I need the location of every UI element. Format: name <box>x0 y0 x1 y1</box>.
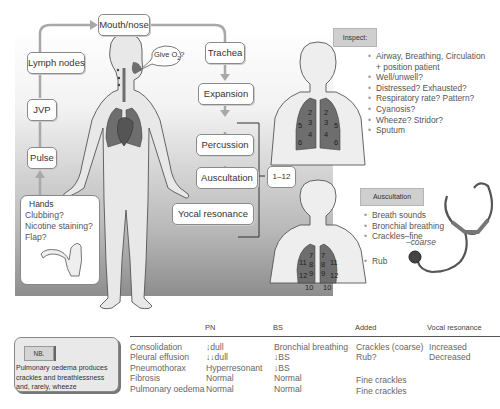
auscultation-item: Bronchial breathing <box>364 221 444 232</box>
give-o2-text: Give O <box>154 50 177 59</box>
table-cell: Decreased <box>429 352 471 362</box>
svg-text:5: 5 <box>298 121 302 130</box>
svg-text:5: 5 <box>334 121 338 130</box>
table-cell: Bronchial breathing <box>274 342 348 352</box>
svg-text:7: 7 <box>321 251 325 260</box>
table-cell: Normal <box>274 373 348 383</box>
table-col-vocal-resonance: Increased Decreased <box>429 342 471 363</box>
svg-text:8: 8 <box>309 260 313 269</box>
table-header: BS <box>273 323 283 332</box>
svg-text:3: 3 <box>324 118 328 127</box>
inspect-item: + position patient <box>368 62 485 73</box>
svg-text:11: 11 <box>330 258 338 267</box>
hands-item: Clubbing? <box>25 210 64 220</box>
flap-hand-icon <box>39 240 89 280</box>
table-header: PN <box>205 323 215 332</box>
give-o2-q: ? <box>180 50 184 59</box>
table-cell: ↓dull <box>206 342 262 352</box>
inspect-item: Distressed? Exhausted? <box>368 83 485 94</box>
auscultation-item: Breath sounds <box>364 210 444 221</box>
table-cell: ↓↓dull <box>206 352 262 362</box>
svg-text:12: 12 <box>330 271 338 280</box>
table-cell <box>356 363 423 373</box>
table-cell: ↓BS <box>274 352 348 362</box>
auscultation-item: Rub <box>364 256 387 267</box>
vocal-resonance-box: Yocal resonance <box>172 203 254 225</box>
table-cell: Pleural effusion <box>130 352 205 362</box>
inspect-item: Well/unwell? <box>368 72 485 83</box>
lymph-nodes-box: Lymph nodes <box>27 52 85 74</box>
table-col-added: Crackles (coarse) Rub? Fine crackles Fin… <box>356 342 423 396</box>
table-header: Added <box>355 323 376 332</box>
table-header: Vocal resonance <box>427 323 482 332</box>
inspect-item: Sputum <box>368 125 485 136</box>
svg-text:4: 4 <box>324 130 328 139</box>
inspect-item: Cyanosis? <box>368 104 485 115</box>
auscultation-rub-list: Rub <box>364 256 387 267</box>
inspect-item: Airway, Breathing, Circulation <box>368 51 485 62</box>
svg-text:2: 2 <box>324 108 328 117</box>
nb-text: Pulmonary oedema produces crackles and b… <box>16 363 118 392</box>
table-rule <box>130 336 500 337</box>
pulse-box: Pulse <box>27 147 57 169</box>
table-cell: Pulmonary oedema <box>130 384 205 394</box>
trachea-box: Trachea <box>205 42 245 64</box>
svg-text:10: 10 <box>323 283 331 292</box>
mouth-nose-box: Mouth/nose <box>98 14 150 36</box>
inspect-item: Respiratory rate? Pattern? <box>368 93 485 104</box>
table-cell: Hyperresonant <box>206 363 262 373</box>
hands-title: Hands <box>29 199 54 209</box>
table-cell: Pneumothorax <box>130 363 205 373</box>
svg-text:2: 2 <box>308 108 312 117</box>
svg-text:10: 10 <box>305 283 313 292</box>
give-oxygen-bubble: Give O2? <box>154 50 184 61</box>
svg-text:3: 3 <box>308 118 312 127</box>
inspect-list: Airway, Breathing, Circulation + positio… <box>368 51 485 136</box>
inspect-tag: Inspect: <box>333 28 377 47</box>
back-chest-figure: 789111210 789111210 <box>270 180 366 292</box>
table-cell: Normal <box>274 384 348 394</box>
table-cell: Rub? <box>356 352 423 362</box>
table-cell: Consolidation <box>130 342 205 352</box>
table-cell: Fine crackles <box>356 386 423 396</box>
hands-box: Hands Clubbing? Nicotine staining? Flap? <box>20 195 100 285</box>
svg-text:11: 11 <box>299 258 307 267</box>
percussion-box: Percussion <box>196 134 254 156</box>
svg-text:12: 12 <box>299 271 307 280</box>
table-cell: Normal <box>206 384 262 394</box>
svg-text:9: 9 <box>321 269 325 278</box>
table-col-bs: Bronchial breathing ↓BS ↓BS Normal Norma… <box>274 342 348 394</box>
front-chest-figure: 23456 23456 <box>271 42 365 165</box>
svg-text:9: 9 <box>309 269 313 278</box>
svg-text:7: 7 <box>309 251 313 260</box>
table-cell: Fibrosis <box>130 373 205 383</box>
hands-item: Nicotine staining? <box>25 221 93 231</box>
table-cell: Increased <box>429 342 471 352</box>
jvp-box: JVP <box>27 99 57 121</box>
table-cell: Crackles (coarse) <box>356 342 423 352</box>
svg-text:6: 6 <box>298 138 302 147</box>
coarse-label: –coarse <box>406 237 436 247</box>
table-cell: Normal <box>206 373 262 383</box>
table-col-condition: Consolidation Pleural effusion Pneumotho… <box>130 342 205 394</box>
auscultation-box: Auscultation <box>196 167 258 189</box>
table-cell: ↓BS <box>274 363 348 373</box>
zones-label: 1–12 <box>267 166 296 188</box>
expansion-box: Expansion <box>198 83 254 105</box>
svg-text:4: 4 <box>308 130 312 139</box>
table-cell: Fine crackles <box>356 375 423 385</box>
inspect-item: Wheeze? Stridor? <box>368 115 485 126</box>
nb-tag: NB. <box>24 346 54 361</box>
nb-box: NB. Pulmonary oedema produces crackles a… <box>14 337 119 392</box>
svg-text:6: 6 <box>334 138 338 147</box>
svg-text:8: 8 <box>321 260 325 269</box>
auscultation-tag: Auscultation <box>360 188 424 206</box>
table-col-pn: ↓dull ↓↓dull Hyperresonant Normal Normal <box>206 342 262 394</box>
